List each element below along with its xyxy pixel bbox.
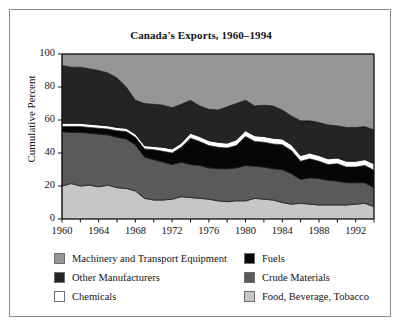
y-axis-tick-label: 0 [29, 212, 55, 223]
y-axis-tick-label: 100 [29, 47, 55, 58]
area-series-group [62, 54, 374, 219]
legend-swatch-icon [244, 253, 255, 264]
legend-swatch-icon [54, 253, 65, 264]
legend-swatch-icon [54, 291, 65, 302]
legend-swatch-icon [244, 291, 255, 302]
x-axis-tick-label: 1988 [301, 225, 337, 236]
x-axis-tick-label: 1976 [191, 225, 227, 236]
legend-label: Food, Beverage, Tobacco [262, 291, 369, 302]
x-axis-tick-label: 1992 [338, 225, 374, 236]
legend-item: Crude Materials [244, 269, 330, 286]
x-axis-tick-label: 1984 [264, 225, 300, 236]
y-axis-tick-label: 80 [29, 80, 55, 91]
legend-item: Machinery and Transport Equipment [54, 250, 227, 267]
chart-legend: Machinery and Transport EquipmentOther M… [54, 250, 384, 308]
x-axis-tick-label: 1968 [117, 225, 153, 236]
x-axis-tick-label: 1964 [81, 225, 117, 236]
y-axis-tick-label: 60 [29, 113, 55, 124]
legend-swatch-icon [54, 272, 65, 283]
legend-item: Fuels [244, 250, 285, 267]
legend-label: Fuels [262, 253, 285, 264]
figure-panel: Canada's Exports, 1960–1994 Cumulative P… [9, 9, 391, 317]
legend-label: Chemicals [72, 291, 116, 302]
x-axis-tick-label: 1980 [228, 225, 264, 236]
y-axis-tick-label: 40 [29, 146, 55, 157]
legend-label: Crude Materials [262, 272, 330, 283]
x-axis-tick-label: 1960 [44, 225, 80, 236]
x-axis-tick-label: 1972 [154, 225, 190, 236]
legend-label: Other Manufacturers [72, 272, 160, 283]
legend-label: Machinery and Transport Equipment [72, 253, 227, 264]
legend-swatch-icon [244, 272, 255, 283]
y-axis-tick-label: 20 [29, 179, 55, 190]
legend-item: Other Manufacturers [54, 269, 160, 286]
legend-item: Chemicals [54, 288, 116, 305]
legend-item: Food, Beverage, Tobacco [244, 288, 369, 305]
